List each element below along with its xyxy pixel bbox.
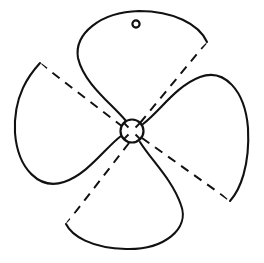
hub-group bbox=[121, 120, 144, 143]
bolt-hole-icon bbox=[132, 20, 139, 27]
drawing-canvas bbox=[0, 0, 264, 263]
propeller-drawing bbox=[0, 0, 264, 263]
